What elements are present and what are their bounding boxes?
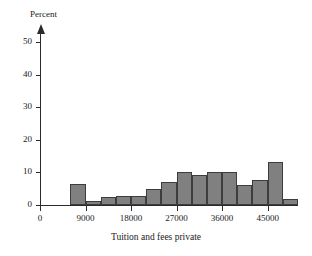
x-tick-label: 36000 — [211, 213, 234, 223]
histogram-bar — [207, 172, 222, 205]
y-tick-label: 0 — [28, 199, 33, 209]
histogram-bar — [146, 189, 161, 205]
x-tick-label: 45000 — [256, 213, 279, 223]
histogram-bar — [192, 175, 207, 205]
x-tick — [86, 206, 87, 211]
histogram-bar — [268, 162, 283, 205]
histogram-bar — [70, 184, 85, 205]
bars-layer — [40, 26, 298, 205]
histogram-bar — [252, 180, 267, 205]
y-tick-label: 50 — [23, 36, 32, 46]
histogram-bar — [101, 197, 116, 205]
y-tick-label: 10 — [23, 166, 32, 176]
x-tick — [131, 206, 132, 211]
y-axis-label: Percent — [30, 9, 57, 19]
histogram-bar — [86, 201, 101, 205]
x-tick-label: 18000 — [120, 213, 143, 223]
y-tick-label: 40 — [23, 69, 32, 79]
histogram-bar — [116, 196, 131, 205]
x-axis-label: Tuition and fees private — [0, 232, 312, 242]
x-tick — [268, 206, 269, 211]
histogram-bar — [237, 185, 252, 206]
histogram-bar — [222, 172, 237, 205]
plot-area: 01020304050 0900018000270003600045000 — [40, 26, 298, 205]
histogram-chart: Percent 01020304050 09000180002700036000… — [0, 0, 312, 256]
x-tick-label: 0 — [38, 213, 43, 223]
x-axis-line — [40, 205, 298, 206]
x-tick — [40, 206, 41, 211]
histogram-bar — [177, 172, 192, 205]
x-tick-label: 9000 — [77, 213, 95, 223]
x-tick — [222, 206, 223, 211]
histogram-bar — [131, 196, 146, 205]
y-tick-label: 20 — [23, 134, 32, 144]
y-tick-label: 30 — [23, 101, 32, 111]
histogram-bar — [161, 182, 176, 205]
x-tick-label: 27000 — [165, 213, 188, 223]
histogram-bar — [283, 199, 298, 205]
x-tick — [177, 206, 178, 211]
